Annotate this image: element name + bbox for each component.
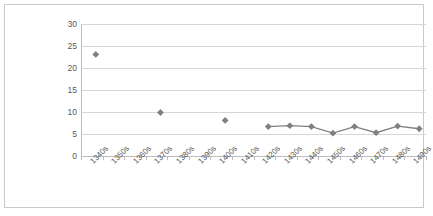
gridline	[81, 68, 426, 69]
y-axis-tick-label: 10	[55, 108, 77, 117]
value-axis-line	[81, 24, 82, 157]
x-axis-tick	[81, 156, 82, 160]
chart-frame: 051015202530 1340s1350s1360s1370s1380s13…	[4, 4, 424, 208]
y-axis-tick-label: 20	[55, 64, 77, 73]
gridline	[81, 112, 426, 113]
gridline	[81, 134, 426, 135]
y-axis-tick-label: 25	[55, 42, 77, 51]
y-axis-tick-label: 0	[55, 152, 77, 161]
gridline	[81, 90, 426, 91]
y-axis-tick-label: 5	[55, 130, 77, 139]
y-axis-tick-label: 30	[55, 20, 77, 29]
gridline	[81, 24, 426, 25]
plot-area	[81, 24, 426, 156]
y-axis-tick-label: 15	[55, 86, 77, 95]
gridline	[81, 46, 426, 47]
y-axis-labels: 051015202530	[53, 24, 77, 156]
